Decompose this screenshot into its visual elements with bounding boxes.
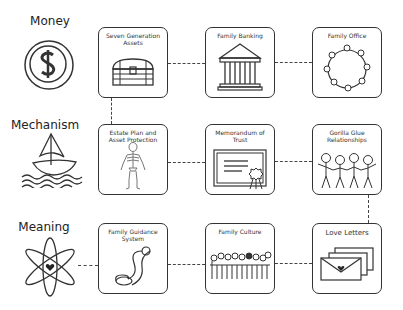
stick-figures-icon (313, 152, 381, 190)
connector-r1c1-r2c1 (111, 98, 112, 124)
row-label-mechanism: Mechanism (0, 118, 90, 132)
box-title: Seven Generation Assets (101, 32, 165, 46)
box-seven-generation-assets: Seven Generation Assets (98, 27, 168, 98)
box-title: Memorandum of Trust (208, 129, 272, 143)
box-family-culture: Family Culture (205, 223, 275, 294)
sailboat-icon (18, 132, 88, 188)
coin-dollar-icon (22, 38, 76, 92)
connector-r2c2-r2c3 (275, 161, 312, 162)
box-family-office: Family Office (312, 27, 382, 98)
certificate-icon (206, 146, 274, 190)
connector-r3c1-r3c2 (168, 264, 205, 265)
connector-meaning-r3c1 (78, 265, 98, 266)
box-love-letters: Love Letters (312, 223, 382, 294)
box-estate-plan: Estate Plan and Asset Protection (98, 124, 168, 195)
box-family-guidance-system: Family Guidance System (98, 223, 168, 294)
box-title: Family Office (315, 32, 379, 39)
connector-r1c1-r1c2 (168, 63, 205, 64)
box-title: Gorilla Glue Relationships (315, 129, 379, 143)
connector-r1c2-r1c3 (275, 62, 312, 63)
family-gathering-icon (206, 251, 274, 281)
box-family-banking: Family Banking (205, 27, 275, 98)
box-title: Love Letters (315, 230, 379, 237)
atom-heart-icon (24, 236, 76, 298)
connector-r3c2-r3c3 (275, 263, 312, 264)
connector-r2c1-r2c2 (168, 162, 205, 163)
treasure-chest-icon (99, 57, 167, 87)
row-label-meaning: Meaning (0, 220, 89, 234)
round-table-icon (313, 43, 381, 93)
box-gorilla-glue-relationships: Gorilla Glue Relationships (312, 124, 382, 195)
box-title: Family Banking (208, 32, 272, 39)
box-title: Family Guidance System (101, 228, 165, 242)
box-title: Family Culture (208, 228, 272, 235)
bank-building-icon (206, 42, 274, 92)
scroll-icon (99, 245, 167, 287)
row-label-money: Money (5, 14, 95, 28)
envelopes-icon (313, 247, 381, 281)
box-title: Estate Plan and Asset Protection (101, 129, 165, 143)
skeleton-icon (99, 142, 167, 190)
box-memorandum-of-trust: Memorandum of Trust (205, 124, 275, 195)
connector-r2c3-r3c3 (368, 195, 369, 223)
